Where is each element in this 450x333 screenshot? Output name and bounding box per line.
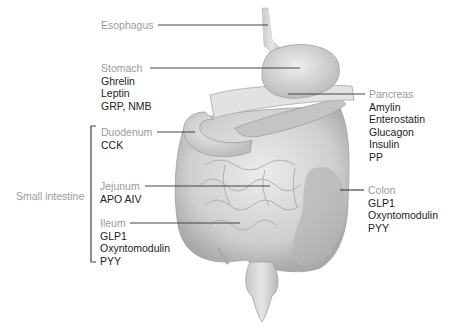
gi-tract-illustration <box>0 0 450 333</box>
pancreas-label-group: Pancreas Amylin Enterostatin Glucagon In… <box>369 88 425 163</box>
hormone-pp: PP <box>369 151 425 164</box>
label-stomach: Stomach <box>101 62 152 75</box>
hormone-pyy: PYY <box>368 222 438 235</box>
ileum-label-group: Ileum GLP1 Oxyntomodulin PYY <box>100 217 170 267</box>
hormone-apo-aiv: APO AIV <box>100 193 141 206</box>
hormone-cck: CCK <box>101 139 152 152</box>
label-duodenum: Duodenum <box>101 126 152 139</box>
hormone-leptin: Leptin <box>101 87 152 100</box>
hormone-amylin: Amylin <box>369 101 425 114</box>
hormone-glp1: GLP1 <box>100 230 170 243</box>
hormone-enterostatin: Enterostatin <box>369 113 425 126</box>
jejunum-label-group: Jejunum APO AIV <box>100 180 141 205</box>
hormone-glp1: GLP1 <box>368 197 438 210</box>
hormone-grp-nmb: GRP, NMB <box>101 100 152 113</box>
duodenum-label-group: Duodenum CCK <box>101 126 152 151</box>
hormone-insulin: Insulin <box>369 138 425 151</box>
label-ileum: Ileum <box>100 217 170 230</box>
small-intestine-bracket <box>91 126 96 262</box>
stomach-label-group: Stomach Ghrelin Leptin GRP, NMB <box>101 62 152 112</box>
label-esophagus: Esophagus <box>101 19 154 32</box>
label-jejunum: Jejunum <box>100 180 141 193</box>
hormone-oxyntomodulin: Oxyntomodulin <box>100 242 170 255</box>
colon-label-group: Colon GLP1 Oxyntomodulin PYY <box>368 184 438 234</box>
hormone-ghrelin: Ghrelin <box>101 75 152 88</box>
rectum-shape <box>246 262 278 322</box>
hormone-oxyntomodulin: Oxyntomodulin <box>368 209 438 222</box>
hormone-pyy: PYY <box>100 255 170 268</box>
label-pancreas: Pancreas <box>369 88 425 101</box>
label-small-intestine: Small intestine <box>16 190 84 203</box>
label-colon: Colon <box>368 184 438 197</box>
hormone-glucagon: Glucagon <box>369 126 425 139</box>
